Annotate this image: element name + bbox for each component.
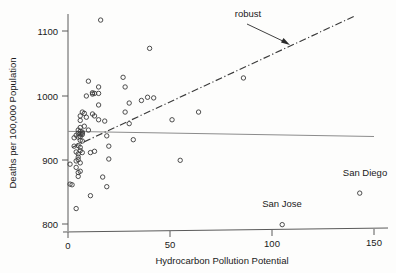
- data-point: [127, 101, 131, 105]
- data-point: [96, 118, 100, 122]
- data-point: [151, 96, 155, 100]
- robust-arrow-head: [281, 38, 290, 45]
- data-point: [131, 138, 135, 142]
- y-tick-label-900: 900: [42, 155, 58, 166]
- data-point: [88, 193, 92, 197]
- data-point: [127, 121, 131, 125]
- data-point: [82, 124, 86, 128]
- regression-lines-group: [68, 16, 374, 148]
- axes-group: [62, 14, 388, 238]
- data-point: [241, 76, 245, 80]
- data-point: [107, 144, 111, 148]
- y-tick-label-1100: 1100: [38, 26, 58, 37]
- data-point: [98, 18, 102, 22]
- data-point: [84, 115, 88, 119]
- data-point: [107, 157, 111, 161]
- san-jose-label: San Jose: [262, 198, 302, 209]
- x-axis-line: [63, 228, 388, 232]
- data-point: [84, 94, 88, 98]
- data-point: [103, 119, 107, 123]
- data-points-group: [68, 18, 362, 227]
- data-point: [74, 206, 78, 210]
- data-point: [68, 162, 72, 166]
- data-point: [92, 149, 96, 153]
- data-point: [123, 85, 127, 89]
- y-axis-title: Deaths per 100,000 Population: [7, 58, 18, 189]
- data-point: [178, 158, 182, 162]
- x-tick-label-50: 50: [165, 239, 176, 250]
- robust-label: robust: [235, 8, 262, 19]
- san-diego-label: San Diego: [343, 167, 387, 178]
- x-tick-label-0: 0: [65, 240, 70, 251]
- plot-canvas: 1100 1000 900 800 0 50 100 150 Hydrocarb…: [0, 0, 396, 273]
- y-tick-label-1000: 1000: [37, 91, 58, 102]
- x-axis-title: Hydrocarbon Pollution Potential: [155, 255, 288, 266]
- data-point: [105, 134, 109, 138]
- trend-line-robust: [72, 16, 356, 148]
- data-point: [78, 118, 82, 122]
- trend-line-least-squares: [68, 131, 374, 136]
- data-point: [145, 95, 149, 99]
- data-point: [96, 103, 100, 107]
- robust-annotation: robust: [235, 8, 290, 45]
- data-point: [196, 110, 200, 114]
- x-tick-label-100: 100: [264, 238, 280, 249]
- data-point: [147, 46, 151, 50]
- data-point: [170, 118, 174, 122]
- y-tick-label-800: 800: [42, 219, 58, 230]
- data-point: [280, 222, 284, 226]
- robust-arrow-line: [247, 24, 287, 43]
- data-point: [86, 79, 90, 83]
- data-point: [121, 75, 125, 79]
- data-point: [100, 175, 104, 179]
- data-point: [96, 85, 100, 89]
- data-point: [358, 191, 362, 195]
- data-point: [105, 184, 109, 188]
- data-point: [123, 110, 127, 114]
- data-point: [139, 98, 143, 102]
- x-tick-label-150: 150: [366, 237, 382, 248]
- data-point: [74, 165, 78, 169]
- scatter-plot-figure: 1100 1000 900 800 0 50 100 150 Hydrocarb…: [0, 0, 396, 273]
